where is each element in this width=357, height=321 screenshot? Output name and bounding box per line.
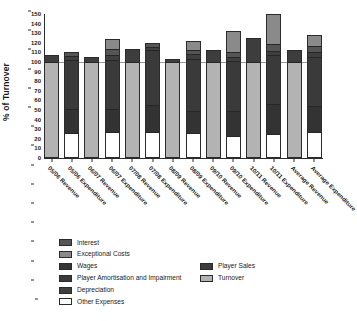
stacked-bar[interactable] (105, 39, 120, 158)
bar-segment (106, 110, 119, 134)
bar-slot (287, 14, 302, 158)
x-axis-tick-mark (273, 158, 274, 162)
y-axis-title-wrap: % of Turnover (0, 44, 14, 140)
bar-segment (45, 63, 58, 157)
bar-segment (45, 56, 58, 63)
legend-column-right: Player SalesTurnover (200, 261, 255, 285)
x-axis-label-group: 05/06 Revenue05/06 Expenditure06/07 Reve… (44, 163, 322, 233)
bar-segment (207, 51, 220, 63)
stacked-bar[interactable] (287, 50, 302, 158)
legend-item[interactable]: Player Sales (200, 261, 255, 273)
stacked-bar[interactable] (266, 14, 281, 158)
bar-segment (267, 135, 280, 157)
x-axis-tick-mark (253, 158, 254, 162)
bar-segment (288, 51, 301, 62)
legend-swatch (59, 263, 72, 270)
stacked-bar[interactable] (84, 57, 99, 158)
y-axis-tick-label: 20 (34, 136, 44, 142)
bar-segment (166, 63, 179, 157)
bar-segment (247, 39, 260, 63)
y-axis-tick-mark (28, 87, 31, 88)
stacked-bar[interactable] (64, 52, 79, 158)
stacked-bar[interactable] (246, 38, 261, 158)
x-axis-tick-mark (193, 158, 194, 162)
bar-segment (308, 133, 321, 157)
x-axis-tick-label: Average Expenditure (310, 165, 357, 212)
bar-segment (187, 42, 200, 51)
bar-segment (85, 63, 98, 157)
y-axis-tick-label: 40 (34, 117, 44, 123)
y-axis-tick-mark (28, 68, 31, 69)
bar-slot (186, 14, 201, 158)
x-axis-label-slot: 09/10 Expenditure (226, 163, 241, 233)
bar-segment (227, 62, 240, 112)
x-axis-label-slot: Average Revenue (287, 163, 302, 233)
legend-label: Player Sales (218, 263, 255, 270)
legend-item[interactable]: Turnover (200, 272, 255, 284)
x-axis-label-slot: 10/11 Revenue (246, 163, 261, 233)
stacked-bar[interactable] (44, 55, 59, 158)
bar-segment (106, 61, 119, 110)
stacked-bar[interactable] (307, 35, 322, 158)
bar-segment (267, 15, 280, 45)
legend-item[interactable]: Player Amortisation and Impairment (59, 272, 181, 284)
legend-item[interactable]: Interest (59, 237, 181, 249)
stacked-bar[interactable] (206, 50, 221, 158)
stacked-bar[interactable] (226, 31, 241, 158)
x-axis-tick-mark (152, 158, 153, 162)
legend-swatch (59, 275, 72, 282)
y-axis-tick-label: 140 (31, 21, 44, 27)
legend-item[interactable]: Wages (59, 261, 181, 273)
x-axis-label-slot: 05/06 Expenditure (64, 163, 79, 233)
y-axis-tick-label: 130 (31, 30, 44, 36)
bar-slot (84, 14, 99, 158)
legend-swatch (59, 239, 72, 246)
legend-label: Other Expenses (77, 299, 124, 306)
legend-item[interactable]: Depreciation (59, 284, 181, 296)
y-axis-tick-label: 10 (34, 145, 44, 151)
bar-segment (267, 45, 280, 52)
bar-segment (65, 61, 78, 110)
bar-segment (308, 36, 321, 47)
legend-column-left: InterestExceptional CostsWagesPlayer Amo… (59, 237, 181, 308)
y-axis-tick-label: 30 (34, 126, 44, 132)
bar-segment (227, 112, 240, 137)
x-axis-label-slot: 07/08 Revenue (125, 163, 140, 233)
stacked-bar[interactable] (165, 59, 180, 158)
x-axis-tick-mark (314, 158, 315, 162)
x-axis-tick-mark (294, 158, 295, 162)
x-axis-label-slot: 07/08 Expenditure (145, 163, 160, 233)
bar-segment (65, 134, 78, 157)
y-axis-tick-mark (31, 145, 34, 146)
y-axis-tick-mark (28, 49, 31, 50)
bar-segment (308, 107, 321, 133)
bar-slot (226, 14, 241, 158)
y-axis-tick-label: 90 (34, 69, 44, 75)
y-axis-tick-label: 50 (34, 107, 44, 113)
stacked-bar[interactable] (125, 49, 140, 158)
legend-label: Turnover (218, 275, 244, 282)
legend-swatch (59, 251, 72, 258)
bar-slot (206, 14, 221, 158)
legend-item[interactable]: Other Expenses (59, 296, 181, 308)
y-axis-tick-label: 80 (34, 78, 44, 84)
legend-label: Player Amortisation and Impairment (77, 275, 181, 282)
x-axis-tick-mark (91, 158, 92, 162)
x-axis-tick-mark (233, 158, 234, 162)
legend-item[interactable]: Exceptional Costs (59, 249, 181, 261)
stacked-bar[interactable] (145, 43, 160, 158)
bar-segment (267, 56, 280, 104)
bar-segment (227, 137, 240, 157)
bar-slot (266, 14, 281, 158)
x-axis-label-slot: 08/09 Expenditure (186, 163, 201, 233)
x-axis-label-slot: 05/06 Revenue (44, 163, 59, 233)
y-axis-tick-label: 110 (31, 49, 44, 55)
x-axis-tick-mark (132, 158, 133, 162)
x-axis-tick-mark (172, 158, 173, 162)
stacked-bar[interactable] (186, 41, 201, 158)
y-axis-title: % of Turnover (1, 63, 11, 121)
y-axis-tick-mark (31, 260, 34, 261)
bar-segment (187, 134, 200, 157)
bar-segment (207, 63, 220, 157)
x-axis-tick-mark (112, 158, 113, 162)
